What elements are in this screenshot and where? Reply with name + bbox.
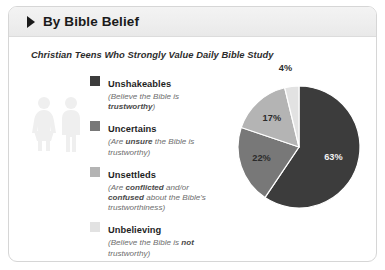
legend-desc-unsettleds: (Are conflicted and/or confused about th… bbox=[108, 183, 225, 214]
bible-belief-card: By Bible Belief Christian Teens Who Stro… bbox=[8, 6, 377, 262]
legend-item-uncertains: Uncertains (Are unsure the Bible is trus… bbox=[90, 118, 225, 157]
legend-swatch-unsettleds bbox=[90, 167, 100, 177]
legend-desc-suffix: trustworthy) bbox=[108, 249, 150, 258]
legend-label-unsettleds: Unsettleds bbox=[108, 170, 156, 180]
card-header: By Bible Belief bbox=[9, 7, 377, 37]
screenshot-root: By Bible Belief Christian Teens Who Stro… bbox=[0, 0, 385, 270]
legend-desc-mid: and/or bbox=[164, 183, 189, 192]
chart-legend: Unshakeables (Believe the Bible is trust… bbox=[90, 73, 225, 262]
legend-desc-emphasis: unsure bbox=[126, 137, 153, 146]
legend-item-unbelieving: Unbelieving (Believe the Bible is not tr… bbox=[90, 219, 225, 258]
legend-desc-suffix: ) bbox=[153, 102, 156, 111]
legend-desc-unbelieving: (Believe the Bible is not trustworthy) bbox=[108, 238, 225, 258]
legend-item-unsettleds: Unsettleds (Are conflicted and/or confus… bbox=[90, 164, 225, 214]
chart-subtitle: Christian Teens Who Strongly Value Daily… bbox=[31, 49, 274, 60]
triangle-right-icon bbox=[27, 16, 35, 28]
legend-desc-prefix: (Believe the Bible is bbox=[108, 238, 181, 247]
legend-desc-emphasis: not bbox=[181, 238, 194, 247]
legend-desc-emphasis: trustworthy bbox=[108, 102, 153, 111]
legend-swatch-unbelieving bbox=[90, 222, 100, 232]
pie-label-uncertains: 22% bbox=[252, 153, 271, 163]
legend-label-unshakeables: Unshakeables bbox=[108, 79, 171, 89]
legend-swatch-unshakeables bbox=[90, 76, 100, 86]
pie-label-unshakeables: 63% bbox=[324, 152, 343, 162]
legend-desc-emphasis2: confused bbox=[108, 193, 144, 202]
legend-desc-prefix: (Are bbox=[108, 137, 126, 146]
two-people-icon bbox=[25, 95, 91, 157]
legend-desc-prefix: (Believe the Bible is bbox=[108, 92, 179, 101]
legend-desc-unshakeables: (Believe the Bible is trustworthy) bbox=[108, 92, 225, 112]
legend-swatch-uncertains bbox=[90, 121, 100, 131]
page-title: By Bible Belief bbox=[43, 14, 139, 29]
legend-label-unbelieving: Unbelieving bbox=[108, 225, 161, 235]
legend-item-unshakeables: Unshakeables (Believe the Bible is trust… bbox=[90, 73, 225, 112]
legend-desc-uncertains: (Are unsure the Bible is trustworthy) bbox=[108, 137, 225, 157]
pie-label-unbelieving: 4% bbox=[279, 63, 292, 73]
legend-desc-prefix: (Are bbox=[108, 183, 126, 192]
pie-label-unsettleds: 17% bbox=[262, 113, 281, 123]
pie-chart: 63% 22% 17% 4% bbox=[237, 83, 365, 217]
legend-desc-emphasis: conflicted bbox=[126, 183, 164, 192]
legend-label-uncertains: Uncertains bbox=[108, 124, 157, 134]
